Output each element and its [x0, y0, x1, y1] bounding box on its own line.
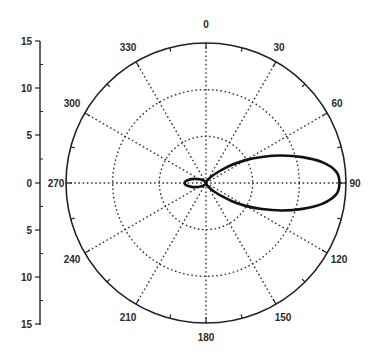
angle-label-210: 210	[120, 312, 137, 323]
radial-scale-axis: 15105051015	[21, 36, 43, 330]
angular-major-tick	[273, 299, 276, 304]
angular-major-tick	[136, 299, 139, 304]
angle-label-240: 240	[64, 254, 81, 265]
radial-tick-label: 5	[26, 130, 32, 141]
grid-spoke	[85, 183, 206, 253]
grid-spoke	[206, 62, 276, 183]
angle-label-330: 330	[120, 42, 137, 53]
radial-tick-label: 10	[21, 83, 33, 94]
angular-minor-tick	[107, 279, 110, 282]
angle-label-90: 90	[349, 178, 361, 189]
angle-label-150: 150	[275, 312, 292, 323]
angle-label-300: 300	[64, 98, 81, 109]
grid-spoke	[206, 183, 276, 304]
grid-spoke	[206, 113, 327, 183]
radial-tick-label: 5	[26, 225, 32, 236]
angular-minor-tick	[302, 279, 305, 282]
angle-label-0: 0	[203, 19, 209, 30]
angle-label-270: 270	[48, 178, 65, 189]
radial-tick-label: 15	[21, 36, 33, 47]
radial-tick-label: 15	[21, 319, 33, 330]
angular-minor-tick	[302, 84, 305, 87]
grid-spoke	[206, 183, 327, 253]
polar-chart: 15105051015 0306090120150180210240270300…	[0, 0, 378, 362]
angle-label-60: 60	[331, 98, 343, 109]
angle-label-120: 120	[331, 254, 348, 265]
grid-spoke	[85, 113, 206, 183]
radial-tick-label: 0	[26, 178, 32, 189]
angular-major-tick	[85, 250, 90, 253]
angular-minor-tick	[107, 84, 110, 87]
angular-major-tick	[136, 62, 139, 67]
angular-major-tick	[322, 250, 327, 253]
angle-label-180: 180	[198, 332, 215, 343]
angular-major-tick	[85, 113, 90, 116]
grid-spoke	[136, 62, 206, 183]
grid-spoke	[136, 183, 206, 304]
angular-major-tick	[322, 113, 327, 116]
radial-tick-label: 10	[21, 272, 33, 283]
angular-major-tick	[273, 62, 276, 67]
angle-label-30: 30	[273, 42, 285, 53]
